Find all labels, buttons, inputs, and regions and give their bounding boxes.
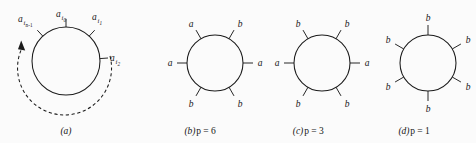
panel-c-tick-label-300: b [345, 99, 350, 109]
caption-c-letter: (c) [293, 126, 304, 137]
panel-b-tick-label-120: a [189, 19, 194, 29]
panel-b-circle [187, 35, 243, 91]
panel-a-tick-1 [89, 30, 95, 36]
panel-c: b b a a b b [275, 19, 370, 109]
panel-c-tick-240 [303, 87, 308, 96]
panel-c-tick-label-60: b [345, 19, 350, 29]
panel-d-tick-330 [452, 77, 461, 82]
panel-a-label-ai0: a i 0 [56, 9, 67, 23]
panel-d-circle [400, 35, 456, 91]
panel-d-tick-210 [395, 77, 404, 82]
panel-c-tick-label-240: b [296, 99, 301, 109]
panel-a-label-ai1: a i 1 [92, 12, 103, 26]
panel-c-tick-label-0: a [365, 58, 370, 68]
panel-b: a b a a b b [168, 19, 263, 109]
svg-text:a: a [56, 9, 61, 19]
panel-b-tick-240 [196, 87, 201, 96]
panel-d-tick-label-30: b [466, 35, 471, 45]
caption-a: (a) [60, 126, 71, 137]
panel-a-tick-2 [100, 58, 108, 59]
panel-b-tick-120 [196, 30, 201, 39]
panel-c-circle [294, 35, 350, 91]
panel-d-tick-label-330: b [466, 82, 471, 92]
panel-b-tick-label-0: a [258, 58, 263, 68]
panel-a-circle [32, 27, 100, 95]
svg-text:0: 0 [64, 17, 67, 23]
figure-canvas: a i 0 a i 1 a i n-1 a i 2 [0, 0, 476, 143]
panel-d-tick-label-270: b [426, 104, 431, 114]
panel-a-tick-n1 [37, 30, 43, 36]
panel-a-arrowhead-icon [18, 41, 25, 51]
svg-text:1: 1 [100, 20, 103, 26]
panel-c-tick-60 [336, 30, 341, 39]
panel-d-tick-150 [395, 44, 404, 49]
captions: (a) (b) p = 6 (c) p = 3 (d) p = 1 [60, 126, 430, 137]
caption-b-letter: (b) [184, 126, 195, 137]
panel-c-tick-label-180: a [275, 58, 280, 68]
panel-d-tick-label-90: b [426, 13, 431, 23]
panel-b-tick-label-180: a [168, 58, 173, 68]
panel-b-tick-label-60: b [238, 19, 243, 29]
panel-b-tick-60 [229, 30, 234, 39]
panel-d-tick-label-210: b [386, 82, 391, 92]
panel-d-tick-30 [452, 44, 461, 49]
panel-c-tick-300 [336, 87, 341, 96]
svg-text:2: 2 [118, 61, 121, 67]
svg-text:n-1: n-1 [26, 22, 33, 28]
svg-text:a: a [92, 12, 97, 22]
caption-c-formula: p = 3 [304, 126, 324, 136]
figure-root: a i 0 a i 1 a i n-1 a i 2 [0, 0, 476, 143]
panel-c-tick-120 [303, 30, 308, 39]
panel-a: a i 0 a i 1 a i n-1 a i 2 [18, 9, 121, 115]
caption-d-letter: (d) [398, 126, 409, 137]
caption-d-formula: p = 1 [410, 126, 430, 136]
panel-b-tick-300 [229, 87, 234, 96]
panel-a-label-ain1: a i n-1 [18, 14, 33, 28]
panel-b-tick-label-240: b [189, 99, 194, 109]
panel-c-tick-label-120: b [296, 19, 301, 29]
panel-d-tick-label-150: b [386, 35, 391, 45]
panel-b-tick-label-300: b [238, 99, 243, 109]
svg-text:a: a [18, 14, 23, 24]
caption-b-formula: p = 6 [196, 126, 216, 136]
panel-d: b b b b b b [386, 13, 471, 114]
